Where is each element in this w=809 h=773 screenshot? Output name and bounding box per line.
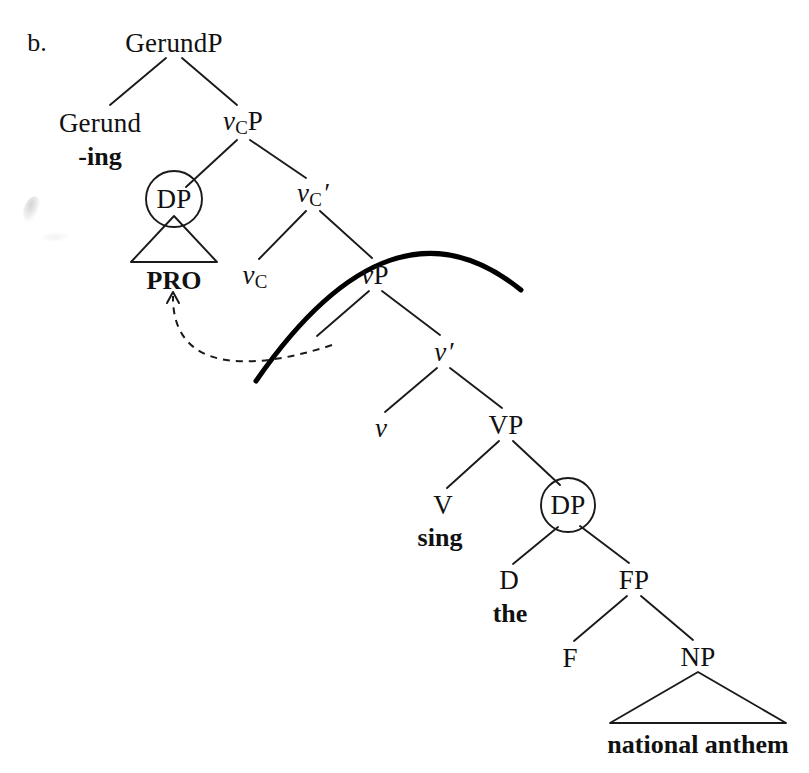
node-v-bar: v′ bbox=[434, 339, 453, 366]
branch-vbar-vp-big bbox=[450, 368, 502, 408]
node-vp-small-tail: P bbox=[373, 260, 388, 290]
branch-vcp-vcbar bbox=[250, 140, 306, 178]
syntax-tree-figure: b. Ger bbox=[0, 0, 809, 773]
node-vp-small: vP bbox=[361, 262, 388, 289]
terminal-pro: PRO bbox=[147, 268, 202, 294]
node-d-head: D bbox=[499, 567, 519, 594]
node-vc-bar-sub: C bbox=[309, 189, 322, 210]
node-fp: FP bbox=[619, 567, 649, 594]
terminal-the: the bbox=[493, 601, 528, 627]
node-f-head: F bbox=[562, 645, 577, 672]
branch-vp-big-dp2 bbox=[513, 441, 560, 485]
terminal-ing: -ing bbox=[78, 144, 121, 170]
node-v-bar-prime: ′ bbox=[448, 337, 454, 367]
node-vc-head-v: v bbox=[243, 260, 255, 290]
node-v-head: V bbox=[433, 492, 453, 519]
node-np: NP bbox=[681, 644, 716, 671]
node-gerundp: GerundP bbox=[125, 30, 222, 57]
node-vc-bar: vC′ bbox=[297, 180, 329, 210]
node-vcp: vCP bbox=[223, 108, 263, 138]
node-vcp-v: v bbox=[223, 106, 235, 136]
branch-vbar-v bbox=[385, 368, 437, 412]
pro-movement-arrow bbox=[173, 296, 332, 361]
node-vp-small-v: v bbox=[361, 260, 373, 290]
branch-vp-big-v-head bbox=[447, 441, 499, 488]
branch-group bbox=[110, 58, 693, 641]
node-vc-head-sub: C bbox=[255, 271, 268, 292]
node-vc-bar-v: v bbox=[297, 178, 309, 208]
terminal-sing: sing bbox=[418, 525, 463, 551]
branch-vp-vbar bbox=[382, 291, 440, 335]
branch-vcbar-vp bbox=[320, 211, 372, 258]
node-vp-big: VP bbox=[489, 412, 524, 439]
node-vcp-sub: C bbox=[235, 117, 248, 138]
node-little-v-glyph: v bbox=[375, 413, 387, 443]
pro-triangle bbox=[131, 216, 217, 262]
branch-fp-np bbox=[641, 596, 693, 640]
branch-dp2-d bbox=[513, 527, 558, 564]
node-vc-bar-prime: ′ bbox=[323, 178, 329, 208]
node-dp-subject: DP bbox=[157, 186, 192, 213]
node-dp-object: DP bbox=[551, 492, 586, 519]
node-vcp-tail: P bbox=[248, 106, 263, 136]
branch-vcbar-vc bbox=[259, 211, 306, 259]
node-vc-head: vC bbox=[243, 262, 268, 292]
branch-gerundp-gerund bbox=[110, 58, 166, 105]
anthem-triangle bbox=[610, 672, 786, 723]
branch-fp-f bbox=[574, 596, 627, 641]
branch-gerundp-vcp bbox=[182, 58, 237, 105]
terminal-national-anthem: national anthem bbox=[607, 732, 788, 758]
node-gerund: Gerund bbox=[59, 110, 141, 137]
node-little-v: v bbox=[375, 415, 387, 442]
branch-dp2-fp bbox=[580, 526, 629, 563]
node-v-bar-v: v bbox=[434, 337, 446, 367]
